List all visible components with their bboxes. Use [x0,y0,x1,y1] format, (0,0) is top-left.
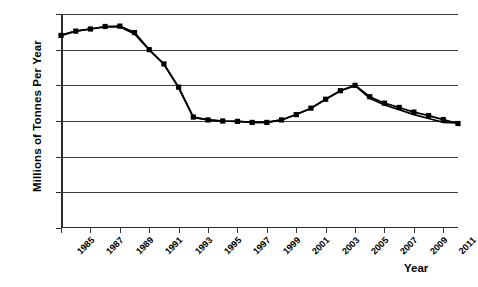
x-tick-label: 2003 [340,235,362,257]
x-tick-mark [120,228,121,233]
x-tick-mark [237,228,238,233]
plot-area: 0100200300400500600198519871989199119931… [61,14,458,228]
x-tick-label: 1987 [104,235,126,257]
x-tick-mark [90,228,91,233]
x-tick-label: 1989 [134,235,156,257]
x-tick-mark [414,228,415,233]
series-layer [61,14,458,228]
x-tick-mark [208,228,209,233]
x-tick-label: 1993 [193,235,215,257]
x-tick-label: 2011 [457,235,478,256]
x-tick-label: 1985 [75,235,97,257]
x-tick-label: 1995 [222,235,244,257]
x-tick-mark [61,228,62,233]
x-tick-mark [179,228,180,233]
x-tick-mark [384,228,385,233]
x-tick-label: 2005 [369,235,391,257]
x-tick-label: 2009 [428,235,450,257]
y-axis-title: Millions of Tonnes Per Year [31,21,43,211]
x-tick-label: 1997 [251,235,273,257]
x-tick-label: 2007 [398,235,420,257]
x-tick-mark [267,228,268,233]
x-tick-mark [355,228,356,233]
x-tick-label: 1999 [281,235,303,257]
x-axis-title: Year [404,262,428,274]
x-tick-label: 1991 [163,235,185,257]
x-tick-mark [149,228,150,233]
x-tick-mark [296,228,297,233]
x-tick-mark [326,228,327,233]
x-tick-mark [443,228,444,233]
x-tick-label: 2001 [310,235,332,257]
